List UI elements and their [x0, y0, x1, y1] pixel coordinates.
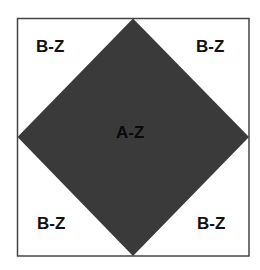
label-bottom-right: B-Z	[197, 215, 225, 232]
label-top-left: B-Z	[36, 38, 64, 55]
label-center: A-Z	[116, 124, 144, 141]
label-top-right: B-Z	[196, 38, 224, 55]
label-bottom-left: B-Z	[37, 215, 65, 232]
